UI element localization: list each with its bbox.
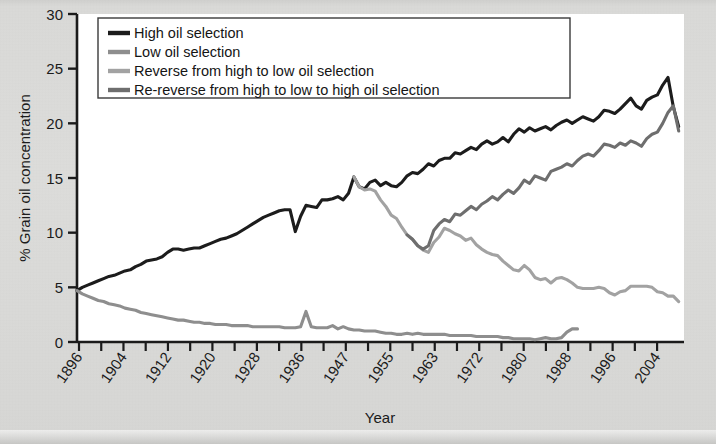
legend-label-1: Low oil selection bbox=[134, 44, 240, 60]
x-tick-label: 2004 bbox=[630, 349, 663, 386]
x-tick-label: 1920 bbox=[186, 349, 219, 386]
chart-canvas: 051015202530 189619041912192019281936194… bbox=[0, 0, 716, 444]
x-axis-ticks: 1896190419121920192819361947195519631972… bbox=[52, 342, 663, 386]
x-tick-label: 1896 bbox=[52, 349, 85, 386]
y-tick-label: 0 bbox=[55, 334, 63, 351]
x-tick-label: 1972 bbox=[453, 349, 486, 386]
y-tick-label: 30 bbox=[46, 6, 63, 23]
x-tick-label: 1912 bbox=[141, 349, 174, 386]
x-tick-label: 1928 bbox=[230, 349, 263, 386]
legend-label-3: Re-reverse from high to low to high oil … bbox=[134, 82, 439, 98]
x-axis-title: Year bbox=[365, 409, 395, 426]
x-tick-label: 1936 bbox=[275, 349, 308, 386]
x-tick-label: 1963 bbox=[408, 349, 441, 386]
legend-label-2: Reverse from high to low oil selection bbox=[134, 63, 374, 79]
figure-panel: 051015202530 189619041912192019281936194… bbox=[0, 0, 716, 444]
x-tick-label: 1947 bbox=[319, 349, 352, 386]
y-axis-ticks: 051015202530 bbox=[46, 6, 77, 351]
x-tick-label: 1988 bbox=[542, 349, 575, 386]
x-tick-label: 1996 bbox=[586, 349, 619, 386]
y-tick-label: 10 bbox=[46, 224, 63, 241]
chart-legend: High oil selectionLow oil selectionRever… bbox=[98, 18, 570, 98]
legend-label-0: High oil selection bbox=[134, 25, 244, 41]
y-tick-label: 5 bbox=[55, 279, 63, 296]
y-tick-label: 15 bbox=[46, 170, 63, 187]
x-tick-label: 1904 bbox=[97, 349, 130, 386]
y-tick-label: 20 bbox=[46, 115, 63, 132]
x-tick-label: 1980 bbox=[497, 349, 530, 386]
y-tick-label: 25 bbox=[46, 60, 63, 77]
x-tick-label: 1955 bbox=[364, 349, 397, 386]
y-axis-title: % Grain oil concentration bbox=[16, 94, 33, 262]
